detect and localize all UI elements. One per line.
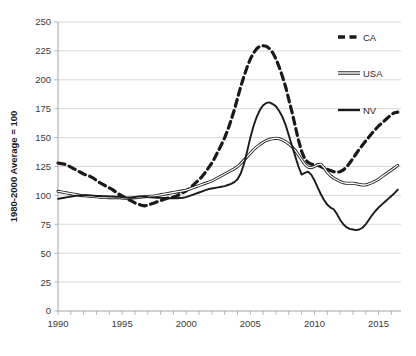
x-tick-labels: 199019952000200520102015 [47, 318, 389, 329]
y-tick-label: 50 [40, 248, 51, 259]
x-tick-label: 2015 [368, 318, 389, 329]
chart-svg: 0255075100125150175200225250 19901995200… [0, 0, 416, 356]
y-tick-label: 225 [35, 45, 51, 56]
x-tick-label: 2005 [240, 318, 261, 329]
chart-legend: CAUSANV [338, 32, 383, 116]
legend-label-nv: NV [363, 105, 377, 116]
y-tick-label: 250 [35, 16, 51, 27]
x-tick-marks [58, 311, 391, 315]
y-tick-label: 150 [35, 132, 51, 143]
y-tick-label: 125 [35, 161, 51, 172]
y-tick-label: 200 [35, 74, 51, 85]
y-tick-label: 175 [35, 103, 51, 114]
y-axis-title-text: 1980-2000 Average = 100 [8, 111, 19, 223]
x-tick-label: 1995 [112, 318, 133, 329]
x-tick-label: 1990 [47, 318, 68, 329]
legend-label-ca: CA [363, 32, 377, 43]
y-axis-title: 1980-2000 Average = 100 [8, 111, 19, 223]
y-tick-label: 100 [35, 190, 51, 201]
legend-label-usa: USA [363, 68, 383, 79]
y-tick-label: 0 [46, 305, 51, 316]
x-tick-label: 2000 [176, 318, 197, 329]
y-tick-labels: 0255075100125150175200225250 [35, 16, 58, 316]
y-tick-label: 25 [40, 277, 51, 288]
x-tick-label: 2010 [304, 318, 325, 329]
house-price-index-chart: 0255075100125150175200225250 19901995200… [0, 0, 416, 356]
gridlines [58, 22, 401, 282]
y-tick-label: 75 [40, 219, 51, 230]
